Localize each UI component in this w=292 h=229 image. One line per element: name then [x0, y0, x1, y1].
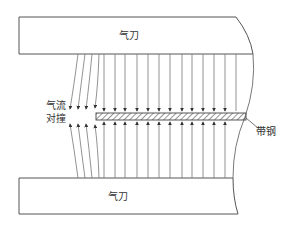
curved-jets: [70, 54, 99, 178]
steel-strip: [96, 113, 246, 120]
bottom-knife-label: 气刀: [108, 191, 128, 203]
collision-label-line1: 气流: [46, 100, 66, 112]
collision-label-line2: 对撞: [46, 113, 66, 125]
strip-label: 带钢: [256, 126, 276, 138]
diagram-canvas: [0, 0, 292, 229]
top-knife-label: 气刀: [119, 30, 139, 42]
bottom-air-knife: [19, 178, 238, 214]
